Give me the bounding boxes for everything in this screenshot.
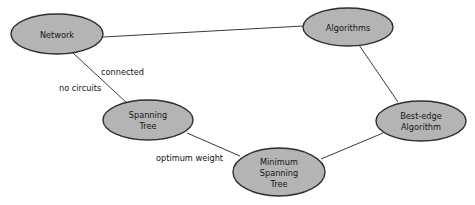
node-algorithms[interactable]: Algorithms [303,8,393,46]
edge-network-spanning-tree [73,53,128,104]
edge-minimum-spanning-tree-best-edge-algorithm [321,133,383,159]
node-algorithms-label: Algorithms [326,23,370,33]
node-network[interactable]: Network [11,14,103,54]
node-network-label: Network [40,30,74,40]
edge-label-connected: connected [101,67,144,77]
edge-label-no-circuits: no circuits [59,83,101,93]
graph-canvas: Network Algorithms Spanning Tree Best-ed… [0,0,475,205]
node-minimum-spanning-tree-label-line3: Tree [269,179,287,189]
node-spanning-tree-label-line1: Spanning [129,110,167,120]
node-spanning-tree-label-line2: Tree [138,121,156,131]
node-best-edge-algorithm-label-line1: Best-edge [400,111,442,121]
node-spanning-tree[interactable]: Spanning Tree [103,100,193,140]
node-best-edge-algorithm-label-line2: Algorithm [401,122,441,132]
node-minimum-spanning-tree[interactable]: Minimum Spanning Tree [233,148,325,196]
edge-network-algorithms [103,26,303,37]
node-minimum-spanning-tree-label-line1: Minimum [260,157,298,167]
node-best-edge-algorithm[interactable]: Best-edge Algorithm [376,101,466,141]
edge-algorithms-best-edge-algorithm [359,45,398,102]
node-minimum-spanning-tree-label-line2: Spanning [260,168,298,178]
concept-diagram: Network Algorithms Spanning Tree Best-ed… [0,0,475,205]
edge-label-optimum-weight: optimum weight [156,153,224,163]
